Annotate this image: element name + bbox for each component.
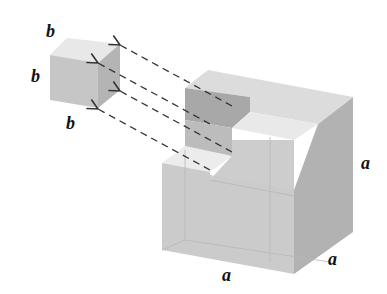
large-cube-label-depth: a xyxy=(328,250,337,268)
diagram-canvas: b b b a a a xyxy=(0,0,387,294)
small-cube-front-face xyxy=(50,55,98,108)
small-cube xyxy=(50,38,120,108)
small-cube-label-bottom: b xyxy=(66,114,75,132)
small-cube-label-top: b xyxy=(46,22,55,40)
small-cube-label-left: b xyxy=(31,67,40,85)
large-cube xyxy=(162,70,353,274)
large-cube-label-right: a xyxy=(361,154,370,172)
large-cube-label-front: a xyxy=(222,266,231,284)
